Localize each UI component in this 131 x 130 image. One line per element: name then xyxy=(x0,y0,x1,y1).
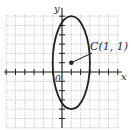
center-label: C(1, 1) xyxy=(90,40,128,53)
origin-label: 0 xyxy=(55,74,61,84)
x-axis-label: x xyxy=(121,71,127,82)
y-axis-label: y xyxy=(53,3,60,14)
center-point xyxy=(69,61,73,65)
label-leader-line xyxy=(71,53,92,63)
ellipse-graph: C(1, 1) x y 0 xyxy=(0,0,131,130)
